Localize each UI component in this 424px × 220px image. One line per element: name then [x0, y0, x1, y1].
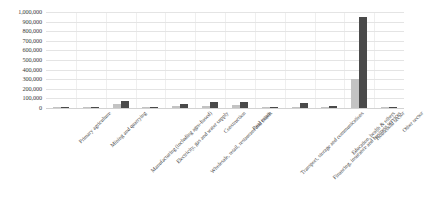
- y-axis-tick-label: 600,000: [23, 47, 42, 53]
- bar-series-2: [329, 106, 337, 108]
- bar-series-1: [292, 107, 300, 108]
- x-axis-labels: Primary agricultureMining and quarryingM…: [46, 110, 404, 210]
- bar-series-2: [61, 107, 69, 108]
- plot-area: [46, 12, 404, 108]
- bar-group: [285, 12, 315, 108]
- bar-series-1: [172, 106, 180, 108]
- bar-group: [106, 12, 136, 108]
- bar-series-1: [232, 105, 240, 108]
- bar-series-2: [359, 17, 367, 108]
- y-axis-tick-label: 200,000: [23, 86, 42, 92]
- y-axis-tick-label: 900,000: [23, 18, 42, 24]
- bar-series-2: [121, 101, 129, 108]
- bars-layer: [46, 12, 404, 108]
- axis-baseline: [46, 108, 404, 109]
- bar-series-2: [180, 104, 188, 108]
- bar-group: [344, 12, 374, 108]
- bar-series-2: [270, 107, 278, 108]
- bar-series-1: [202, 106, 210, 108]
- bar-group: [315, 12, 345, 108]
- bar-group: [255, 12, 285, 108]
- bar-series-1: [321, 107, 329, 108]
- bar-group: [195, 12, 225, 108]
- y-axis: 1,000,000900,000800,000700,000600,000500…: [0, 12, 44, 108]
- bar-group: [225, 12, 255, 108]
- bar-series-2: [91, 107, 99, 108]
- x-axis-tick-label: Manufacturing (including agro-based): [149, 110, 212, 173]
- x-axis-tick-label: Transport, storage and communications: [299, 110, 364, 175]
- bar-group: [46, 12, 76, 108]
- bar-series-2: [300, 103, 308, 108]
- bar-series-1: [113, 104, 121, 108]
- bar-series-1: [53, 107, 61, 108]
- bar-series-1: [381, 107, 389, 108]
- bar-group: [76, 12, 106, 108]
- bar-series-1: [142, 107, 150, 108]
- bar-series-1: [83, 107, 91, 108]
- y-axis-tick-label: 300,000: [23, 76, 42, 82]
- y-axis-tick-label: 800,000: [23, 28, 42, 34]
- y-axis-tick-label: 500,000: [23, 57, 42, 63]
- bar-group: [374, 12, 404, 108]
- bar-series-2: [389, 107, 397, 108]
- y-axis-tick-label: 100,000: [23, 95, 42, 101]
- bar-group: [165, 12, 195, 108]
- y-axis-tick-label: 0: [39, 105, 42, 111]
- bar-group: [136, 12, 166, 108]
- y-axis-tick-label: 1,000,000: [18, 9, 42, 15]
- bar-series-2: [210, 102, 218, 108]
- y-axis-tick-label: 400,000: [23, 66, 42, 72]
- bar-series-2: [150, 107, 158, 108]
- x-axis-tick-label: Primary agriculture: [77, 110, 111, 144]
- x-axis-tick-label: Real estate: [251, 110, 272, 131]
- x-axis-tick-label: Mining and quarrying: [109, 110, 147, 148]
- bar-series-1: [351, 79, 359, 108]
- bar-series-1: [262, 107, 270, 108]
- bar-series-2: [240, 102, 248, 108]
- y-axis-tick-label: 700,000: [23, 38, 42, 44]
